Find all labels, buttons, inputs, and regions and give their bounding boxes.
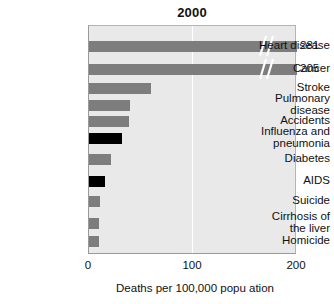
bar [89,116,129,127]
bar [89,133,122,144]
bar [89,218,99,229]
deaths-bar-chart: 2000 Heart diseaseCancerStrokePulmonary … [0,0,334,304]
category-label: Cirrhosis of the liver [248,210,334,234]
bar [89,196,100,207]
x-tick-label: 200 [276,259,316,271]
category-label: AIDS [248,174,334,186]
x-tick-label: 100 [172,259,212,271]
bar [89,154,111,165]
value-label: 205 [300,62,319,74]
category-label: Heart disease [248,39,334,51]
bar [89,83,151,94]
category-label: Pulmonary disease [248,92,334,116]
x-axis-title: Deaths per 100,000 popu ation [60,282,330,294]
bar [89,176,105,187]
category-label: Suicide [248,194,334,206]
category-label: Cancer [248,62,334,74]
x-tick-label: 0 [68,259,108,271]
category-label: Influenza and pneumonia [248,125,334,149]
category-label: Homicide [248,234,334,246]
gridline-100 [192,26,193,253]
bar [89,100,130,111]
bar [89,236,99,247]
category-label: Diabetes [248,152,334,164]
chart-title: 2000 [88,5,296,20]
value-label: 281 [300,39,319,51]
